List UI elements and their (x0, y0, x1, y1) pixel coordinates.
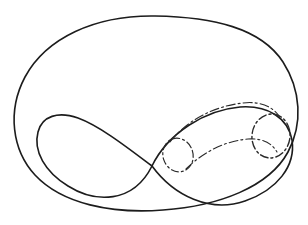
canvas-background (0, 0, 308, 225)
figure-canvas (0, 0, 308, 225)
topology-diagram (0, 0, 308, 225)
